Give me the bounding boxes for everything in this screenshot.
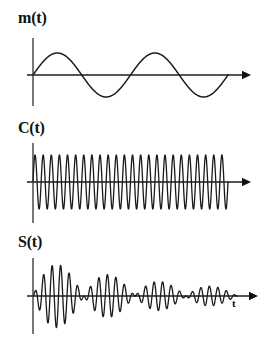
modulated-signal-plot xyxy=(0,0,275,346)
x-axis-label-t: t xyxy=(232,298,236,309)
waveform-figure: m(t) C(t) S(t) t xyxy=(0,0,275,346)
